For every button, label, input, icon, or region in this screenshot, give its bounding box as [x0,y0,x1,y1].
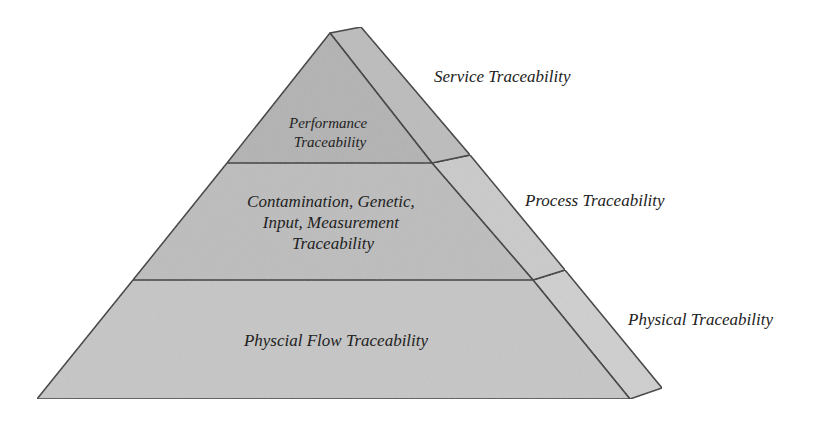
tier-middle-line-3: Traceability [292,234,375,253]
tier-top-line-2: Traceability [294,134,367,150]
tier-middle-line-2: Input, Measurement [262,213,401,232]
tier-bottom-label: Physcial Flow Traceability [243,331,429,350]
traceability-pyramid: Performance Traceability Contamination, … [0,0,821,428]
side-label-service: Service Traceability [434,67,571,86]
tier-top-line-1: Performance [288,115,368,131]
tier-bottom-line-1: Physcial Flow Traceability [243,331,429,350]
side-label-process: Process Traceability [524,191,665,210]
tier-middle-line-1: Contamination, Genetic, [247,192,415,211]
side-label-physical: Physical Traceability [627,310,773,329]
